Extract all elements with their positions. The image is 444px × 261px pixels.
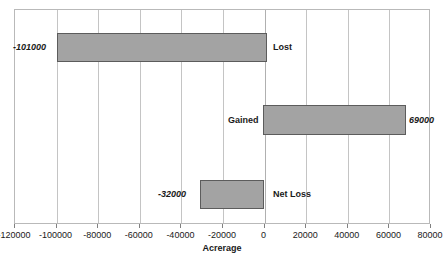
bar-chart: -101000Lost69000Gained-32000Net Loss -12… <box>0 0 444 261</box>
x-tick-label: 0 <box>261 231 266 240</box>
value-label-lost: -101000 <box>13 43 46 52</box>
x-tick-label: -40000 <box>166 231 194 240</box>
x-tick-label: 40000 <box>334 231 359 240</box>
x-tick-mark <box>139 224 140 228</box>
x-tick-label: 20000 <box>293 231 318 240</box>
x-tick-mark <box>305 224 306 228</box>
category-label-gained: Gained <box>228 116 259 125</box>
x-tick-label: -20000 <box>208 231 236 240</box>
bar-lost[interactable] <box>57 33 267 62</box>
x-tick-label: -80000 <box>83 231 111 240</box>
x-tick-label: -60000 <box>125 231 153 240</box>
category-label-lost: Lost <box>273 43 292 52</box>
x-axis-title: Acrerage <box>0 244 444 253</box>
value-label-gained: 69000 <box>409 116 434 125</box>
value-label-net-loss: -32000 <box>158 190 186 199</box>
category-label-net-loss: Net Loss <box>273 190 311 199</box>
x-tick-mark <box>180 224 181 228</box>
x-tick-label: 60000 <box>376 231 401 240</box>
x-tick-label: -120000 <box>0 231 31 240</box>
bar-net-loss[interactable] <box>200 180 264 209</box>
x-tick-mark <box>430 224 431 228</box>
x-tick-mark <box>56 224 57 228</box>
x-tick-mark <box>97 224 98 228</box>
x-tick-mark <box>388 224 389 228</box>
x-tick-mark <box>14 224 15 228</box>
plot-area: -101000Lost69000Gained-32000Net Loss <box>14 9 430 224</box>
x-tick-mark <box>222 224 223 228</box>
x-tick-mark <box>264 224 265 228</box>
x-tick-mark <box>347 224 348 228</box>
x-tick-label: 80000 <box>417 231 442 240</box>
x-tick-label: -100000 <box>39 231 72 240</box>
bar-gained[interactable] <box>263 105 406 135</box>
